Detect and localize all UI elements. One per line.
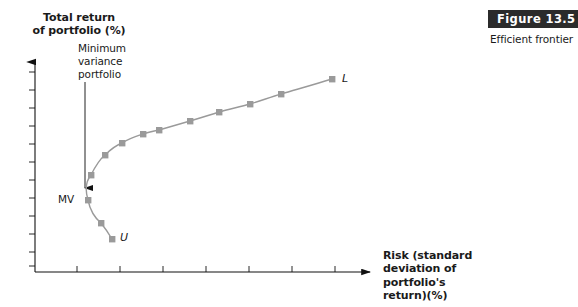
data-point xyxy=(140,131,146,137)
min-variance-annotation-label: Minimum variance portfolio xyxy=(78,42,173,80)
data-point-mv xyxy=(85,197,91,203)
data-point-u xyxy=(109,236,115,242)
x-axis-ticks xyxy=(77,266,335,272)
figure-tag-label: Figure 13.5 xyxy=(497,12,575,26)
data-point-markers xyxy=(85,76,335,242)
frontier-lower-branch xyxy=(88,200,112,239)
data-point xyxy=(88,172,94,178)
y-axis-title: Total return of portfolio (%) xyxy=(14,11,144,38)
data-point xyxy=(98,220,104,226)
data-point-l xyxy=(329,76,335,82)
mv-point-label: MV xyxy=(58,193,74,206)
u-point-label: U xyxy=(120,231,128,244)
data-point xyxy=(119,140,125,146)
x-axis-title: Risk (standard deviation of portfolio's … xyxy=(383,249,558,303)
data-point xyxy=(187,118,193,124)
data-point xyxy=(247,101,253,107)
data-point xyxy=(216,109,222,115)
data-point xyxy=(102,152,108,158)
x-axis xyxy=(35,266,370,272)
y-axis xyxy=(29,62,35,272)
y-axis-ticks xyxy=(29,72,35,266)
figure-caption: Efficient frontier xyxy=(490,33,573,46)
data-point xyxy=(156,127,162,133)
data-point xyxy=(278,91,284,97)
frontier-upper-branch xyxy=(86,79,332,200)
l-point-label: L xyxy=(342,72,348,85)
